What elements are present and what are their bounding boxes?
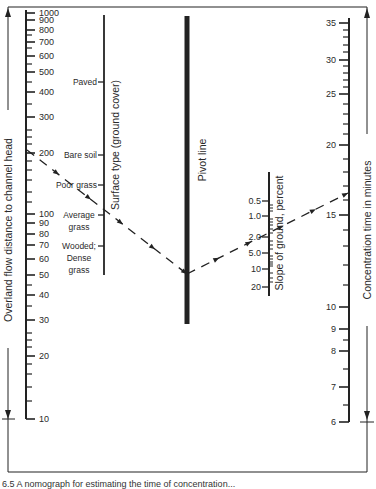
tick-label: 20 — [39, 351, 49, 361]
figure-caption: 6.5 A nomograph for estimating the time … — [2, 479, 235, 489]
surface-label: Dense — [67, 253, 92, 263]
tick-label: 50 — [39, 270, 49, 280]
tick-label: 800 — [39, 25, 54, 35]
arrowhead-icon — [245, 242, 251, 247]
arrow-up-icon — [5, 8, 11, 17]
arrowhead-icon — [149, 244, 155, 250]
concentration-time-axis-title: Concentration time in minutes — [361, 161, 373, 300]
tick-label: 80 — [39, 229, 49, 239]
overland-flow-axis: 1000900800700600500400300200100908070605… — [26, 8, 59, 424]
arrow-down-icon — [364, 411, 370, 420]
arrow-down-icon — [5, 410, 11, 419]
pivot-line-title: Pivot line — [196, 139, 208, 182]
surface-type-axis-title: Surface type (ground cover) — [109, 80, 121, 210]
tick-label: 9 — [331, 324, 336, 334]
overland-flow-axis-title: Overland flow distance to channel head — [2, 138, 14, 322]
tick-label: 500 — [39, 67, 54, 77]
surface-label: Poor grass — [56, 180, 97, 190]
tick-label: 300 — [39, 112, 54, 122]
tick-label: 0.5 — [248, 196, 261, 206]
tick-label: 90 — [39, 218, 49, 228]
tick-label: 40 — [39, 290, 49, 300]
arrow-up-icon — [364, 8, 370, 18]
tick-label: 10 — [39, 414, 49, 424]
surface-label: Average — [63, 210, 95, 220]
tick-label: 1.0 — [248, 211, 261, 221]
tick-label: 900 — [39, 15, 54, 25]
surface-label: Wooded; — [62, 241, 96, 251]
tick-label: 15 — [326, 210, 336, 220]
tick-label: 10 — [326, 302, 336, 312]
tick-label: 35 — [326, 18, 336, 28]
arrowhead-icon — [213, 258, 219, 263]
tick-label: 8 — [331, 346, 336, 356]
slope-axis: 0.51.02.05.01020 — [248, 172, 273, 296]
surface-label: Bare soil — [64, 150, 97, 160]
surface-label: grass — [69, 265, 90, 275]
tick-label: 10 — [251, 264, 261, 274]
tick-label: 400 — [39, 87, 54, 97]
tick-label: 200 — [39, 148, 54, 158]
tick-label: 5.0 — [248, 248, 261, 258]
tick-label: 60 — [39, 254, 49, 264]
tick-label: 20 — [326, 140, 336, 150]
tick-label: 600 — [39, 51, 54, 61]
surface-label: grass — [69, 222, 90, 232]
surface-label: Paved — [73, 77, 97, 87]
tick-label: 30 — [39, 315, 49, 325]
tick-label: 6 — [331, 417, 336, 427]
tick-label: 700 — [39, 37, 54, 47]
tick-label: 30 — [326, 55, 336, 65]
tick-label: 7 — [331, 382, 336, 392]
arrowhead-icon — [309, 209, 315, 214]
concentration-time-axis: 3530252015109876 — [326, 18, 349, 427]
tick-label: 70 — [39, 240, 49, 250]
tick-label: 25 — [326, 89, 336, 99]
surface-type-axis: PavedBare soilPoor grassAveragegrassWood… — [56, 15, 104, 275]
arrowhead-icon — [85, 194, 91, 200]
slope-axis-title: Slope of ground, percent — [273, 175, 285, 290]
tick-label: 20 — [251, 282, 261, 292]
dashed-segment — [187, 193, 348, 274]
arrowhead-icon — [342, 193, 348, 198]
